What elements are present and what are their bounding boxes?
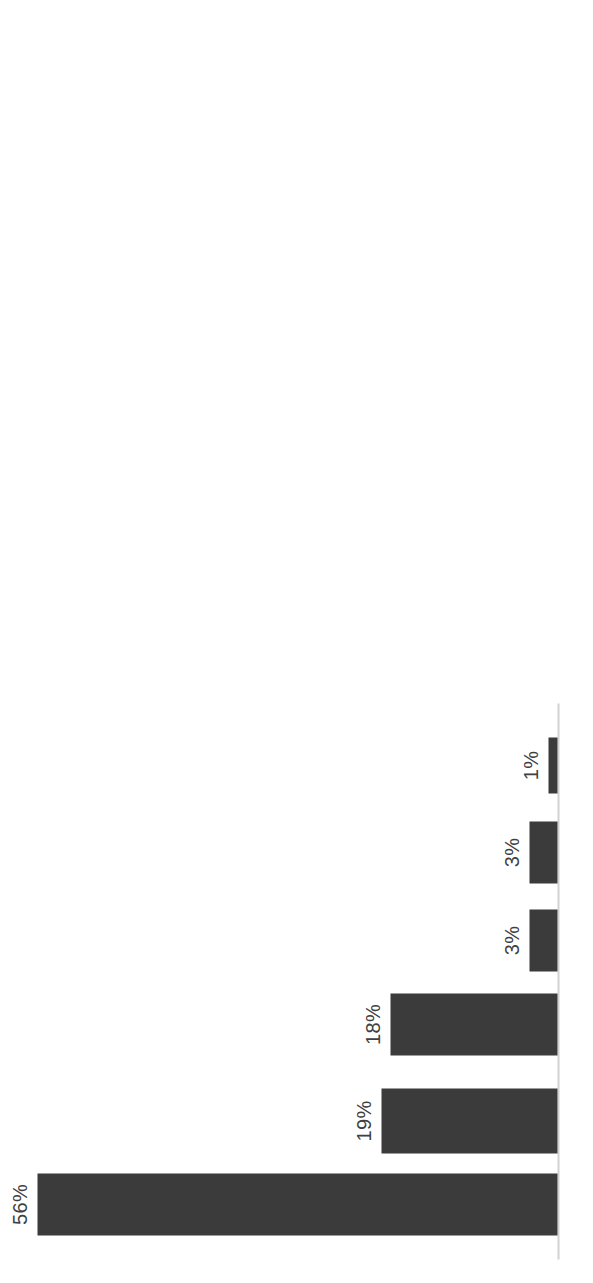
plot-area: 56% I am interested in English football … [0,0,593,1283]
bar[interactable] [37,1173,557,1235]
bar[interactable] [529,909,557,971]
bar[interactable] [381,1088,557,1153]
bar-chart-figure: 56% I am interested in English football … [0,0,593,1283]
bar-value-label: 3% [500,817,523,887]
bar[interactable] [390,993,557,1055]
bar[interactable] [548,737,557,793]
bar[interactable] [529,821,557,883]
bar-value-label: 19% [352,1086,375,1156]
bar-value-label: 56% [8,1169,31,1239]
bar-series: 56% I am interested in English football … [0,0,593,1283]
bar-value-label: 3% [500,905,523,975]
bar-value-label: 1% [519,730,542,800]
bar-value-label: 18% [361,989,384,1059]
